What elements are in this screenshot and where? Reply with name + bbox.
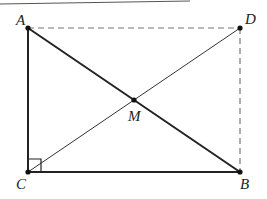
point-B <box>237 169 242 174</box>
point-M <box>131 97 136 102</box>
right-angle-marker <box>28 159 41 172</box>
geometry-diagram: A D C B M <box>0 0 267 199</box>
point-C <box>25 169 30 174</box>
point-A <box>25 25 30 30</box>
top-border-line <box>0 1 190 4</box>
label-B: B <box>240 176 249 192</box>
label-D: D <box>244 11 256 27</box>
label-M: M <box>127 108 142 124</box>
label-C: C <box>16 176 27 192</box>
point-D <box>237 25 242 30</box>
label-A: A <box>15 12 26 28</box>
